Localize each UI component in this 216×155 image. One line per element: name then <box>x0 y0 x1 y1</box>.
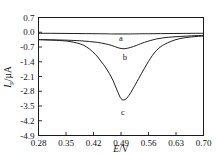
x-axis-title: E/V <box>112 144 128 154</box>
y-axis-tick-labels: 0.70.0-0.7-1.4-2.1-2.8-3.5-4.2-4.9 <box>20 13 35 141</box>
x-tick-label: 0.70 <box>196 138 212 148</box>
y-axis-title: Ip/µA <box>3 66 15 89</box>
y-tick-label: -2.8 <box>20 86 35 96</box>
chart-canvas: 0.280.350.420.490.560.630.70 0.70.0-0.7-… <box>0 0 216 155</box>
x-tick-label: 0.35 <box>58 138 74 148</box>
y-tick-label: -3.5 <box>20 101 35 111</box>
y-tick-label: -2.1 <box>20 72 34 82</box>
voltammogram-chart: 0.280.350.420.490.560.630.70 0.70.0-0.7-… <box>0 0 216 155</box>
y-tick-label: -0.7 <box>20 42 35 52</box>
x-tick-label: 0.63 <box>168 138 184 148</box>
curve-label-b: b <box>123 52 127 62</box>
y-tick-label: -4.9 <box>20 131 35 141</box>
x-tick-label: 0.42 <box>86 138 102 148</box>
y-tick-label: -4.2 <box>20 116 34 126</box>
y-tick-label: -1.4 <box>20 57 35 67</box>
y-tick-label: 0.7 <box>23 13 35 23</box>
x-axis-title-text: E/V <box>112 144 128 154</box>
curve-label-a: a <box>119 33 123 43</box>
y-tick-label: 0.0 <box>23 27 35 37</box>
curve-label-c: c <box>121 107 125 117</box>
x-tick-label: 0.56 <box>141 138 157 148</box>
y-axis-title-text: Ip/µA <box>3 66 15 89</box>
